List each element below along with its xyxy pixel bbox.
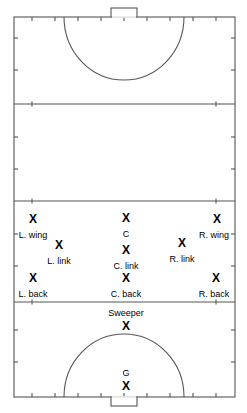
player-marker-l-back: X bbox=[29, 272, 37, 284]
top-shooting-circle bbox=[64, 17, 184, 80]
player-label-l-wing: L. wing bbox=[19, 231, 48, 240]
player-marker-l-wing: X bbox=[29, 213, 37, 225]
player-label-c-link: C. link bbox=[113, 262, 138, 271]
player-label-goalie: G bbox=[122, 369, 129, 378]
player-label-c-back: C. back bbox=[111, 290, 142, 299]
player-marker-c-back: X bbox=[122, 272, 130, 284]
player-marker-r-link: X bbox=[178, 237, 186, 249]
player-label-sweeper: Sweeper bbox=[108, 309, 144, 318]
formation-diagram-page: XL. wingXCXR. wingXL. linkXC. linkXR. li… bbox=[0, 0, 247, 413]
player-marker-c-link: X bbox=[122, 244, 130, 256]
player-label-r-back: R. back bbox=[199, 290, 230, 299]
field-boundary bbox=[14, 17, 235, 397]
player-label-r-link: R. link bbox=[169, 255, 194, 264]
player-label-r-wing: R. wing bbox=[199, 231, 229, 240]
player-marker-center: X bbox=[122, 212, 130, 224]
player-marker-l-link: X bbox=[55, 239, 63, 251]
player-marker-sweeper: X bbox=[122, 320, 130, 332]
player-marker-r-back: X bbox=[212, 272, 220, 284]
player-label-center: C bbox=[123, 230, 130, 239]
player-marker-goalie: X bbox=[122, 380, 130, 392]
player-marker-r-wing: X bbox=[213, 213, 221, 225]
player-label-l-link: L. link bbox=[47, 257, 71, 266]
bottom-goal bbox=[111, 397, 137, 406]
player-label-l-back: L. back bbox=[18, 290, 47, 299]
top-goal bbox=[111, 8, 137, 17]
field-hockey-pitch bbox=[0, 0, 247, 413]
